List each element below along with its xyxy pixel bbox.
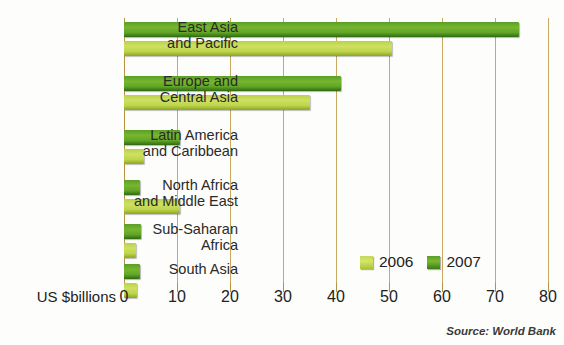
x-tick-label-60: 60 (433, 288, 451, 306)
bar-chart: East Asia and PacificEurope and Central … (0, 0, 564, 345)
legend-label-2006: 2006 (379, 253, 413, 271)
x-tick-label-0: 0 (120, 288, 129, 306)
gridline-70 (495, 18, 496, 283)
legend: 20062007 (360, 253, 481, 271)
plot-area: East Asia and PacificEurope and Central … (124, 18, 548, 283)
category-label-3: North Africa and Middle East (0, 177, 244, 209)
x-tick-label-30: 30 (274, 288, 292, 306)
legend-item-2007: 2007 (427, 253, 480, 271)
gridline-50 (389, 18, 390, 283)
x-axis-tick-labels: 01020304050607080 (124, 288, 548, 310)
gridline-80 (548, 18, 549, 283)
category-label-2: Latin America and Caribbean (0, 127, 244, 159)
source-note: Source: World Bank (446, 325, 556, 337)
category-label-0: East Asia and Pacific (0, 19, 244, 51)
gridline-60 (442, 18, 443, 283)
x-tick-label-80: 80 (539, 288, 557, 306)
gridline-30 (283, 18, 284, 283)
x-tick-label-50: 50 (380, 288, 398, 306)
x-tick-label-70: 70 (486, 288, 504, 306)
cut-off-title (280, 0, 564, 3)
legend-label-2007: 2007 (446, 253, 480, 271)
x-axis-title: US $billions (6, 288, 116, 305)
legend-item-2006: 2006 (360, 253, 413, 271)
gridline-40 (336, 18, 337, 283)
x-tick-label-40: 40 (327, 288, 345, 306)
legend-swatch-icon-2006 (360, 256, 373, 269)
category-label-4: Sub-Saharan Africa (0, 221, 244, 253)
category-label-5: South Asia (0, 261, 244, 277)
x-tick-label-10: 10 (168, 288, 186, 306)
legend-swatch-icon-2007 (427, 256, 440, 269)
category-label-1: Europe and Central Asia (0, 73, 244, 105)
x-tick-label-20: 20 (221, 288, 239, 306)
category-labels: East Asia and PacificEurope and Central … (0, 18, 244, 283)
